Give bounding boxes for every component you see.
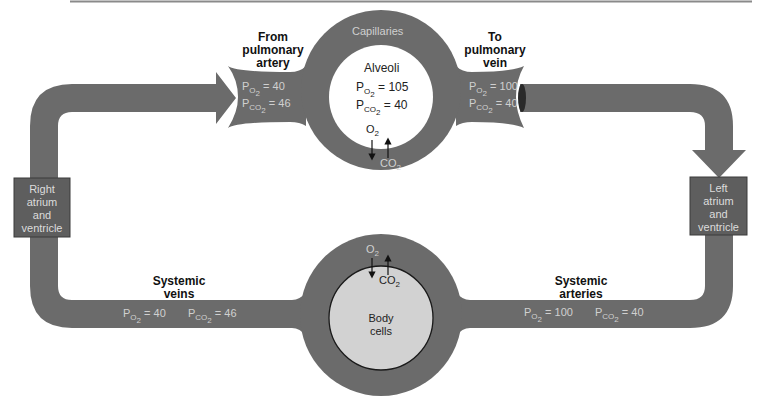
systemic-arteries-pco2: PCO2 = 40 <box>595 307 644 320</box>
systemic-arteries-po2: PO2 = 100 <box>524 307 573 320</box>
pulmonary-vein-po2: PO2 = 100 <box>469 81 518 94</box>
pulmonary-vein-label: To pulmonary vein <box>460 31 530 70</box>
pulmonary-artery-pco2: PCO2 = 46 <box>242 98 291 111</box>
body-o2-label: O2 <box>366 244 379 255</box>
left-heart-label: Left atrium and ventricle <box>690 182 747 234</box>
systemic-veins-pco2: PCO2 = 46 <box>188 308 237 321</box>
systemic-veins-label: Systemic veins <box>148 275 210 301</box>
pulmonary-artery-label: From pulmonary artery <box>242 31 304 70</box>
alveoli-label: Alveoli <box>364 62 399 74</box>
alveoli-pco2: PCO2 = 40 <box>356 99 408 113</box>
vein-valve <box>518 84 526 112</box>
vessel-right-loop <box>520 84 746 178</box>
capillaries-label: Capillaries <box>352 26 403 37</box>
systemic-arteries-label: Systemic arteries <box>550 275 612 301</box>
systemic-veins-po2: PO2 = 40 <box>123 308 166 321</box>
lung-o2-label: O2 <box>366 124 379 135</box>
right-heart-label: Right atrium and ventricle <box>14 183 70 235</box>
pulmonary-vein-pco2: PCO2 = 40 <box>469 98 518 111</box>
body-co2-label: CO2 <box>379 275 400 286</box>
lung-co2-label: CO2 <box>380 158 401 169</box>
pulmonary-artery-po2: PO2 = 40 <box>242 81 285 94</box>
alveoli-po2: PO2 = 105 <box>356 81 408 95</box>
body-cells-label: Body cells <box>356 312 406 338</box>
